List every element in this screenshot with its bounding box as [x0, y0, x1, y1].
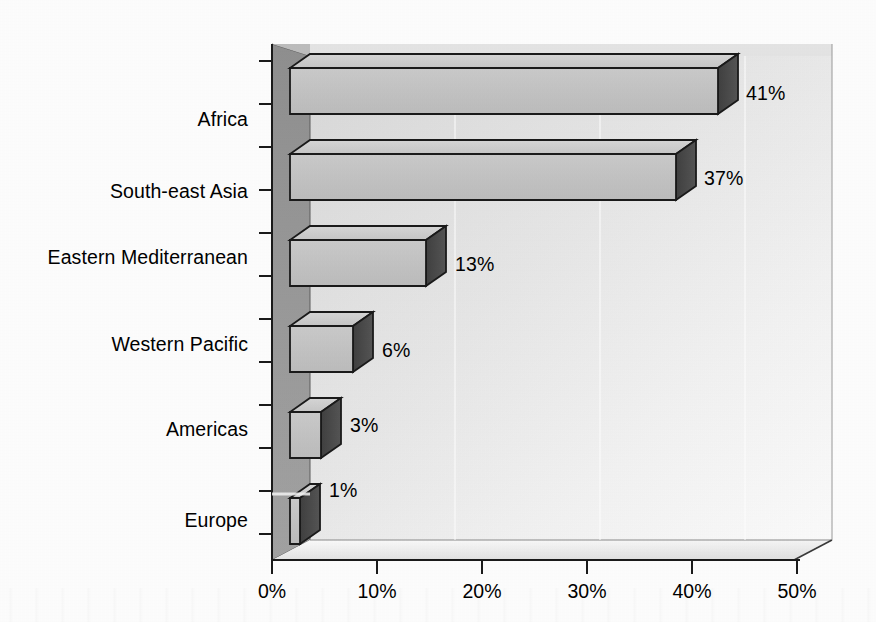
bar-africa — [290, 54, 738, 114]
bar-top-face — [290, 226, 446, 240]
floor-surface — [272, 540, 832, 560]
bar-top-face — [290, 54, 738, 68]
bar-front-face — [290, 498, 300, 544]
x-tick-label-40: 40% — [652, 580, 732, 603]
bar-value-western-pacific: 6% — [382, 339, 410, 362]
bar-front-face — [290, 326, 353, 372]
bar-value-eastern-mediterranean: 13% — [455, 253, 494, 276]
x-tick-label-50: 50% — [757, 580, 837, 603]
back-wall-surface — [310, 56, 832, 540]
chart-container: Africa South-east Asia Eastern Mediterra… — [0, 0, 876, 622]
x-tick-label-30: 30% — [547, 580, 627, 603]
bar-value-europe: 1% — [329, 479, 357, 502]
bar-front-face — [290, 412, 321, 458]
x-axis-ticks — [272, 560, 797, 574]
category-label-europe: Europe — [20, 509, 248, 532]
bar-front-face — [290, 154, 676, 200]
bar-value-africa: 41% — [746, 82, 785, 105]
y-axis-ticks — [259, 61, 272, 534]
bar-eastern-mediterranean — [290, 226, 446, 286]
bar-americas — [290, 398, 341, 458]
bar-value-south-east-asia: 37% — [704, 167, 743, 190]
bar-south-east-asia — [290, 140, 696, 200]
bar-front-face — [290, 68, 718, 114]
category-label-eastern-mediterranean: Eastern Mediterranean — [20, 246, 248, 269]
x-tick-label-10: 10% — [337, 580, 417, 603]
bar-western-pacific — [290, 312, 373, 372]
category-label-africa: Africa — [20, 108, 248, 131]
bar-top-face — [290, 140, 696, 154]
x-tick-label-0: 0% — [232, 580, 312, 603]
category-label-americas: Americas — [20, 418, 248, 441]
category-label-western-pacific: Western Pacific — [20, 333, 248, 356]
category-label-south-east-asia: South-east Asia — [20, 180, 248, 203]
bar-value-americas: 3% — [350, 414, 378, 437]
x-tick-label-20: 20% — [442, 580, 522, 603]
left-side-wall-surface — [272, 44, 310, 560]
bar-front-face — [290, 240, 426, 286]
